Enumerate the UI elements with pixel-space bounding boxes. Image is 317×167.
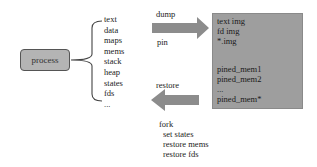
fork-step: restore mems [159,139,209,149]
pin-label: pin [157,37,168,47]
field-item: data [104,25,124,36]
restore-arrow-icon [151,89,201,111]
field-item: states [104,78,124,89]
process-node: process [20,49,70,71]
field-item: text [104,14,124,25]
field-item: maps [104,35,124,46]
checkpoint-image-box: text img fd img *.img pined_mem1 pined_m… [212,13,303,109]
fork-step: set states [159,129,209,139]
pinned-mem-item: pined_mem* [217,95,298,105]
process-fields-list: text data maps mems stack heap states fd… [104,14,124,109]
field-item: mems [104,46,124,57]
process-label: process [32,55,59,65]
image-file: *.img [217,37,298,47]
field-item: stack [104,56,124,67]
pinned-mem-item: pined_mem2 [217,75,298,85]
field-item: fds [104,88,124,99]
fork-step: restore fds [159,149,209,159]
field-item: ... [104,99,124,110]
fork-title: fork [159,119,209,129]
dump-arrow-icon [152,17,210,39]
fork-steps: fork set states restore mems restore fds [159,119,209,159]
field-item: heap [104,67,124,78]
curly-brace-icon [70,20,106,102]
